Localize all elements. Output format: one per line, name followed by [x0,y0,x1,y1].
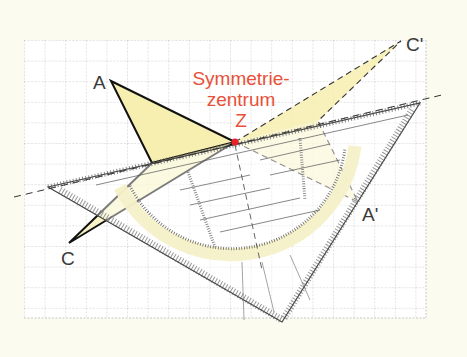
center-label-point: Z [186,110,296,131]
center-label-line2: zentrum [186,89,296,110]
label-C: C [61,249,75,268]
diagram-canvas: A C A' C' Symmetrie- zentrum Z [0,0,467,357]
label-A-prime: A' [362,205,378,224]
symmetry-center-label: Symmetrie- zentrum Z [186,68,296,131]
geometry-figure [0,0,467,357]
symmetry-center-point [232,139,239,146]
center-label-line1: Symmetrie- [186,68,296,89]
label-C-prime: C' [406,35,423,54]
label-A: A [93,73,106,92]
